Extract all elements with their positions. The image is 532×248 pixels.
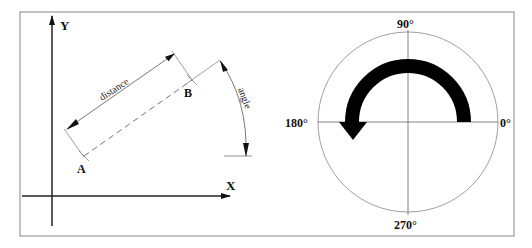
angle-arc: [220, 61, 246, 156]
extension-line: [186, 60, 220, 84]
point-a-label: A: [77, 162, 86, 176]
rotation-arrowhead-icon: [339, 122, 367, 140]
label-270: 270°: [394, 218, 417, 232]
diagram-frame: [20, 12, 514, 236]
y-axis-label: Y: [60, 18, 70, 33]
coordinate-panel: Y X A B distance angle: [22, 16, 254, 226]
label-0: 0°: [500, 116, 511, 130]
diagram-canvas: Y X A B distance angle 90° 180° 0° 270°: [0, 0, 532, 248]
polar-panel: 90° 180° 0° 270°: [285, 17, 511, 232]
label-180: 180°: [285, 116, 308, 130]
label-90: 90°: [397, 17, 414, 31]
distance-label: distance: [97, 75, 131, 102]
x-axis-label: X: [226, 178, 236, 193]
point-b-label: B: [184, 86, 192, 100]
